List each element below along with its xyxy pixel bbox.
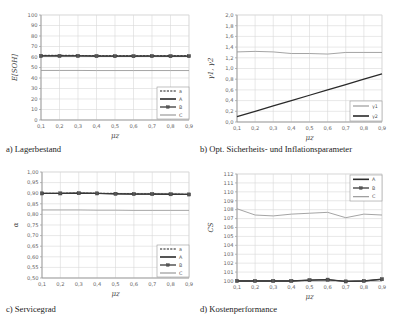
y-tick-label: 60 xyxy=(31,54,38,60)
data-marker xyxy=(362,279,365,282)
x-tick-label: 0,9 xyxy=(185,281,193,287)
x-tick-label: 0,3 xyxy=(269,284,277,290)
y-tick-label: 0,55 xyxy=(27,264,39,270)
y-tick-label: 0,60 xyxy=(27,254,39,260)
x-axis-label: μz xyxy=(305,134,314,142)
caption-a: a) Lagerbestand xyxy=(6,144,61,154)
y-tick-label: 0,90 xyxy=(27,190,39,196)
y-tick-label: 108 xyxy=(224,206,234,212)
data-marker xyxy=(113,55,116,58)
x-tick-label: 0,4 xyxy=(287,284,296,290)
x-tick-label: 0,8 xyxy=(167,281,175,287)
y-tick-label: 107 xyxy=(224,215,234,221)
x-tick-label: 0,2 xyxy=(56,281,64,287)
y-tick-label: 1,2 xyxy=(225,55,233,61)
data-marker xyxy=(290,279,293,282)
y-axis-label: α xyxy=(12,222,20,227)
y-tick-label: 1,6 xyxy=(225,33,233,39)
y-tick-label: 2,0 xyxy=(225,12,233,18)
data-marker xyxy=(151,192,154,195)
data-marker xyxy=(59,192,62,195)
legend-label: a xyxy=(179,89,182,94)
data-marker xyxy=(344,280,347,283)
data-marker xyxy=(58,54,61,57)
x-tick-label: 0,5 xyxy=(305,125,313,131)
chart-b-svg: 0,00,20,40,60,81,01,21,41,61,82,00,10,20… xyxy=(198,0,396,140)
x-tick-label: 0,7 xyxy=(148,281,156,287)
y-tick-label: 90 xyxy=(31,22,38,28)
x-tick-label: 0,4 xyxy=(287,125,296,131)
data-marker xyxy=(77,192,80,195)
x-axis-label: μz xyxy=(111,290,120,298)
y-tick-label: 0,4 xyxy=(225,97,234,103)
x-tick-label: 0,7 xyxy=(342,284,350,290)
chart-c-svg: 0,500,550,600,650,700,750,800,850,900,95… xyxy=(0,162,200,300)
data-marker xyxy=(114,192,117,195)
x-tick-label: 0,7 xyxy=(148,123,156,129)
chart-panel-b: 0,00,20,40,60,81,01,21,41,61,82,00,10,20… xyxy=(198,0,396,140)
y-tick-label: 0,8 xyxy=(225,76,233,82)
x-tick-label: 0,6 xyxy=(130,281,138,287)
data-marker xyxy=(40,192,43,195)
y-tick-label: 40 xyxy=(31,75,38,81)
y-tick-label: 1,8 xyxy=(225,23,233,29)
y-tick-label: 10 xyxy=(31,106,38,112)
data-marker xyxy=(169,193,172,196)
x-tick-label: 0,5 xyxy=(305,284,313,290)
data-marker xyxy=(380,278,383,281)
x-axis-label: μz xyxy=(111,132,120,140)
x-tick-label: 0,2 xyxy=(55,123,63,129)
y-tick-label: 101 xyxy=(224,269,234,275)
y-tick-label: 109 xyxy=(224,198,234,204)
x-tick-label: 0,9 xyxy=(185,123,193,129)
legend-label: B xyxy=(372,186,375,191)
x-tick-label: 0,4 xyxy=(92,123,101,129)
y-axis-label: E[SOH] xyxy=(11,54,19,82)
chart-a-svg: 01020304050607080901000,10,20,30,40,50,6… xyxy=(0,0,200,140)
legend-label: B xyxy=(179,105,182,110)
legend-box xyxy=(157,87,189,119)
y-tick-label: 0,6 xyxy=(225,87,233,93)
data-marker xyxy=(187,55,190,58)
x-tick-label: 0,3 xyxy=(269,125,277,131)
x-tick-label: 0,5 xyxy=(111,281,119,287)
x-tick-label: 0,2 xyxy=(251,284,259,290)
caption-b: b) Opt. Sicherheits- und Inflationsparam… xyxy=(200,144,352,154)
legend-label: γ2 xyxy=(372,114,378,119)
y-tick-label: 110 xyxy=(224,189,234,195)
y-tick-label: 0,65 xyxy=(27,243,39,249)
data-marker xyxy=(39,54,42,57)
data-marker xyxy=(76,54,79,57)
y-axis-label: γ1, γ2 xyxy=(207,57,215,79)
y-tick-label: 100 xyxy=(224,278,234,284)
legend-box xyxy=(157,245,189,277)
chart-panel-d: 1001011021031041051061071081091101111120… xyxy=(198,162,396,300)
y-tick-label: 30 xyxy=(31,85,38,91)
chart-d-svg: 1001011021031041051061071081091101111120… xyxy=(198,162,396,300)
y-axis-label: CS xyxy=(207,222,215,232)
y-tick-label: 106 xyxy=(224,224,234,230)
x-tick-label: 0,2 xyxy=(251,125,259,131)
y-tick-label: 50 xyxy=(31,64,38,70)
y-tick-label: 111 xyxy=(224,180,234,186)
x-tick-label: 0,6 xyxy=(324,125,332,131)
data-marker xyxy=(326,278,329,281)
y-tick-label: 100 xyxy=(28,12,38,18)
y-tick-label: 104 xyxy=(224,242,235,248)
caption-c: c) Servicegrad xyxy=(6,304,56,314)
data-marker xyxy=(254,279,257,282)
data-marker xyxy=(132,55,135,58)
x-tick-label: 0,8 xyxy=(360,125,368,131)
chart-panel-c: 0,500,550,600,650,700,750,800,850,900,95… xyxy=(0,162,200,300)
x-tick-label: 0,8 xyxy=(166,123,174,129)
y-tick-label: 112 xyxy=(224,171,234,177)
y-tick-label: 102 xyxy=(224,260,234,266)
y-tick-label: 0,85 xyxy=(27,201,39,207)
data-marker xyxy=(235,279,238,282)
chart-panel-a: 01020304050607080901000,10,20,30,40,50,6… xyxy=(0,0,200,140)
data-marker xyxy=(187,193,190,196)
data-marker xyxy=(150,54,153,57)
caption-d: d) Kostenperformance xyxy=(200,304,277,314)
data-marker xyxy=(169,55,172,58)
x-tick-label: 0,6 xyxy=(324,284,332,290)
